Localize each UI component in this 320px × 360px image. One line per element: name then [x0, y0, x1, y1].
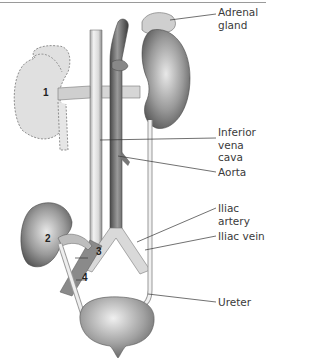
- label-line: gland: [218, 19, 258, 32]
- label-iliac-vein: Iliac vein: [218, 230, 265, 243]
- label-line: Adrenal: [218, 6, 258, 19]
- marker-1: 1: [43, 87, 49, 98]
- label-line: Ureter: [218, 296, 251, 309]
- label-iliac-artery: Iliac artery: [218, 202, 266, 227]
- label-line: Inferior: [218, 126, 266, 139]
- bladder-shape: [80, 297, 154, 358]
- label-ureter: Ureter: [218, 296, 251, 309]
- label-line: Iliac vein: [218, 230, 265, 243]
- label-line: Aorta: [218, 166, 246, 179]
- marker-3: 3: [96, 246, 102, 257]
- inferior-vena-cava-shape: [90, 30, 102, 245]
- label-adrenal-gland: Adrenal gland: [218, 6, 258, 31]
- label-inferior-vena-cava: Inferior vena cava: [218, 126, 266, 164]
- label-line: vena cava: [218, 139, 266, 164]
- label-aorta: Aorta: [218, 166, 246, 179]
- marker-4: 4: [82, 272, 88, 283]
- left-kidney-shape: [142, 29, 190, 128]
- aorta-shape: [110, 19, 128, 230]
- label-line: Iliac artery: [218, 202, 266, 227]
- marker-2: 2: [45, 233, 51, 244]
